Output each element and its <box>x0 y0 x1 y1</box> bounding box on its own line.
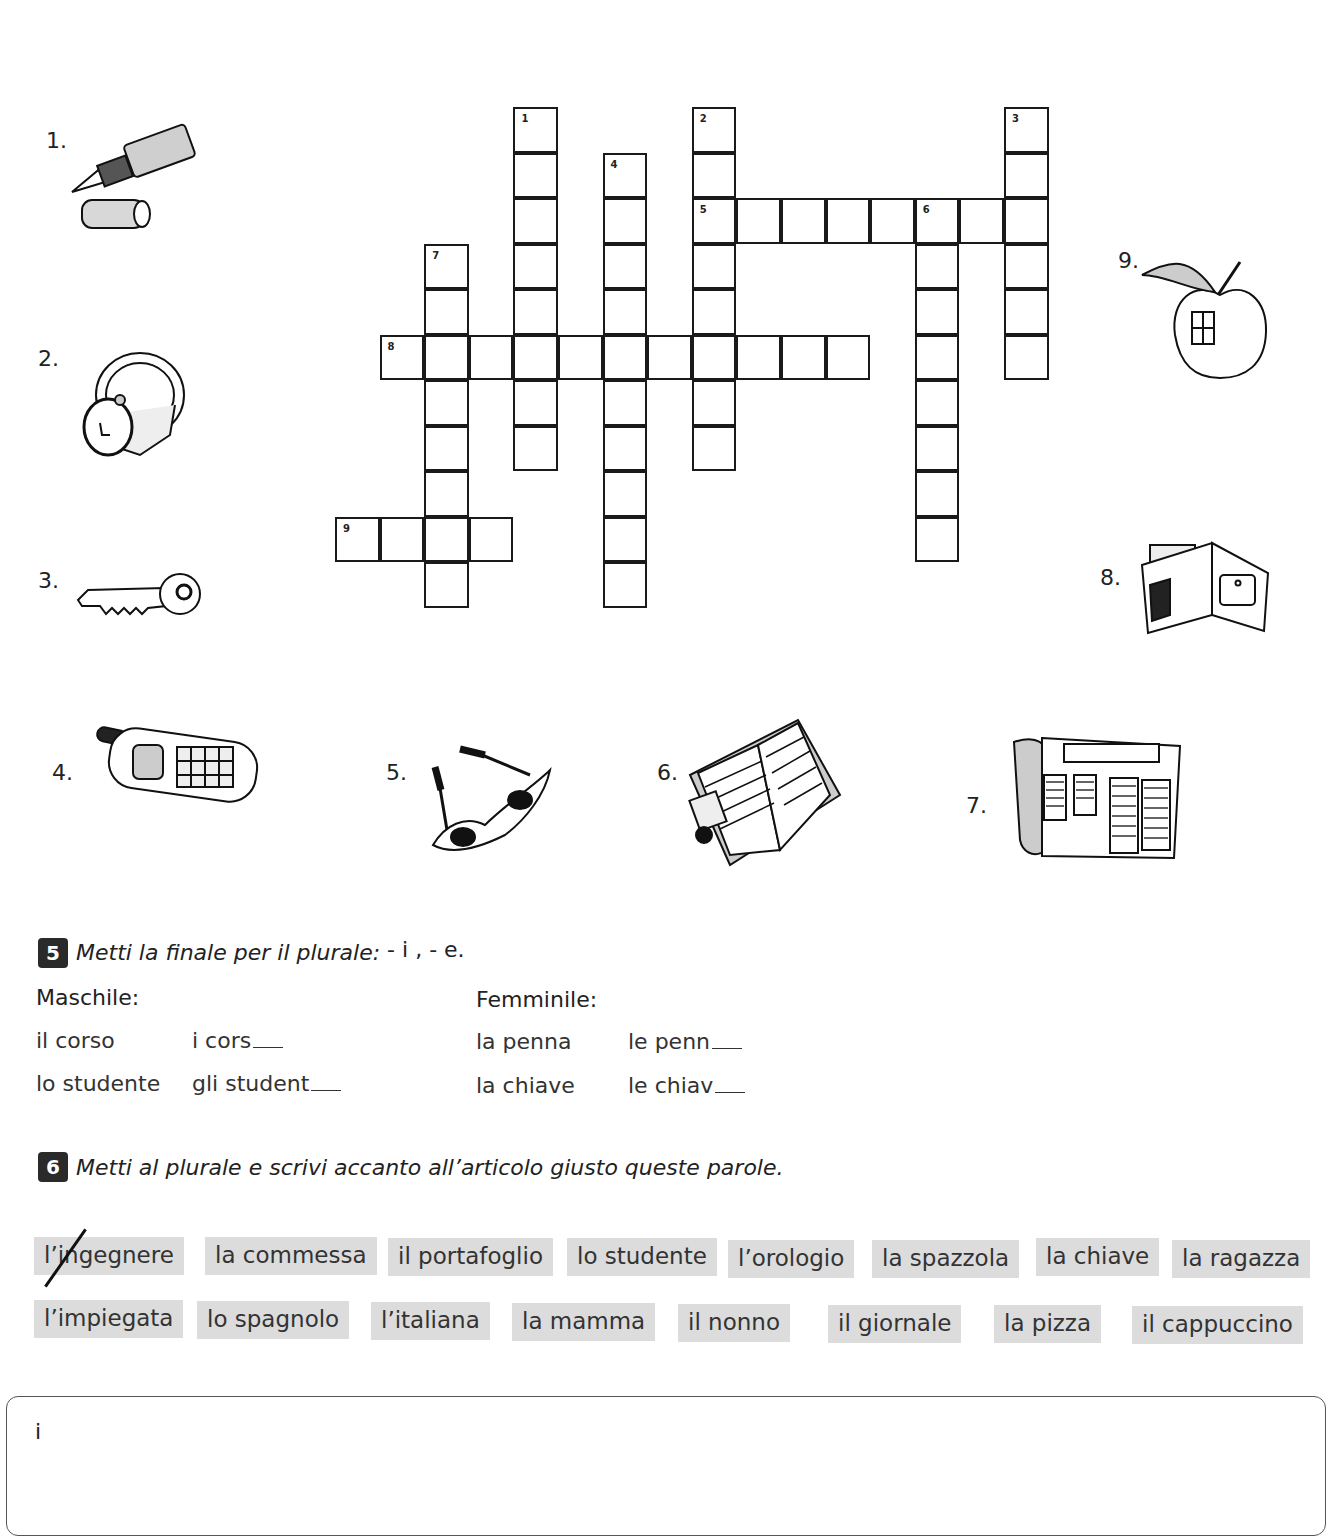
crossword-cell[interactable] <box>692 335 737 381</box>
crossword-cell[interactable] <box>603 517 648 563</box>
word-tag[interactable]: la mamma <box>512 1303 655 1341</box>
crossword-cell[interactable] <box>826 198 871 244</box>
word-tag[interactable]: il nonno <box>678 1304 790 1342</box>
crossword-cell[interactable]: 1 <box>513 107 558 153</box>
crossword-cell[interactable] <box>736 198 781 244</box>
ending-blank[interactable] <box>715 1076 745 1093</box>
crossword-cell[interactable] <box>603 244 648 290</box>
crossword-cell[interactable] <box>603 335 648 381</box>
picture-label-5: 5. <box>386 760 407 785</box>
word-tag[interactable]: la ragazza <box>1172 1240 1310 1278</box>
crossword-cell[interactable] <box>1004 198 1049 244</box>
crossword-cell[interactable] <box>603 289 648 335</box>
crossword-cell[interactable]: 3 <box>1004 107 1049 153</box>
word-tag[interactable]: lo studente <box>567 1238 717 1276</box>
crossword-cell[interactable] <box>469 335 514 381</box>
crossword-cell[interactable] <box>692 153 737 199</box>
word-tag[interactable]: l’ingegnere <box>34 1237 184 1275</box>
crossword-cell[interactable] <box>1004 244 1049 290</box>
crossword-cell[interactable] <box>647 335 692 381</box>
ending-blank[interactable] <box>253 1031 283 1048</box>
crossword-cell[interactable] <box>959 198 1004 244</box>
crossword-cell[interactable] <box>513 153 558 199</box>
crossword-cell[interactable] <box>380 517 425 563</box>
crossword-cell[interactable] <box>1004 335 1049 381</box>
word-tag[interactable]: l’italiana <box>371 1302 490 1340</box>
crossword-cell[interactable] <box>692 426 737 472</box>
word-tag[interactable]: il cappuccino <box>1132 1306 1303 1344</box>
crossword-cell[interactable] <box>513 380 558 426</box>
word-tag[interactable]: l’orologio <box>728 1240 854 1278</box>
clue-number: 1 <box>521 113 528 124</box>
crossword-cell[interactable] <box>781 198 826 244</box>
crossword-cell[interactable] <box>826 335 871 381</box>
crossword-cell[interactable]: 4 <box>603 153 648 199</box>
crossword-cell[interactable] <box>692 244 737 290</box>
crossword-cell[interactable] <box>603 198 648 244</box>
crossword-cell[interactable] <box>469 517 514 563</box>
glasses-icon <box>425 745 555 860</box>
crossword-cell[interactable] <box>424 335 469 381</box>
crossword-cell[interactable]: 7 <box>424 244 469 290</box>
crossword-cell[interactable] <box>915 426 960 472</box>
word-tag[interactable]: la commessa <box>205 1237 377 1275</box>
crossword-cell[interactable] <box>424 562 469 608</box>
crossword-cell[interactable]: 9 <box>335 517 380 563</box>
picture-label-2: 2. <box>38 346 59 371</box>
ending-blank[interactable] <box>311 1074 341 1091</box>
crossword-cell[interactable] <box>513 335 558 381</box>
crossword-cell[interactable] <box>513 244 558 290</box>
word-tag[interactable]: il giornale <box>828 1305 961 1343</box>
crossword-cell[interactable] <box>915 380 960 426</box>
crossword-cell[interactable] <box>870 198 915 244</box>
crossword-cell[interactable] <box>781 335 826 381</box>
crossword-cell[interactable] <box>513 289 558 335</box>
crossword-cell[interactable] <box>915 517 960 563</box>
crossword-cell[interactable]: 2 <box>692 107 737 153</box>
word-tag[interactable]: la chiave <box>1036 1238 1159 1276</box>
word-tag[interactable]: la pizza <box>994 1305 1101 1343</box>
agenda-icon <box>680 715 845 870</box>
picture-label-4: 4. <box>52 760 73 785</box>
crossword-cell[interactable] <box>513 426 558 472</box>
ending-blank[interactable] <box>712 1032 742 1049</box>
word-tag[interactable]: la spazzola <box>872 1240 1019 1278</box>
maschile-singular-1: il corso <box>36 1028 115 1053</box>
crossword-cell[interactable] <box>603 380 648 426</box>
word-tag[interactable]: il portafoglio <box>388 1238 553 1276</box>
answer-box[interactable]: i <box>6 1396 1326 1536</box>
article-label: i <box>35 1419 41 1444</box>
crossword-cell[interactable] <box>424 517 469 563</box>
wallet-icon <box>1140 535 1275 635</box>
crossword-cell[interactable]: 8 <box>380 335 425 381</box>
crossword-cell[interactable] <box>1004 289 1049 335</box>
fountain-pen-icon <box>62 122 202 234</box>
picture-label-7: 7. <box>966 793 987 818</box>
femminile-plural-2: le chiav <box>628 1073 745 1098</box>
clue-number: 8 <box>388 341 395 352</box>
crossword-cell[interactable] <box>603 426 648 472</box>
crossword-cell[interactable] <box>915 244 960 290</box>
crossword-cell[interactable] <box>558 335 603 381</box>
crossword-cell[interactable] <box>603 471 648 517</box>
word-tag[interactable]: l’impiegata <box>34 1300 183 1338</box>
word-tag[interactable]: lo spagnolo <box>197 1301 349 1339</box>
apple-icon <box>1140 250 1270 385</box>
crossword-cell[interactable] <box>915 471 960 517</box>
crossword-cell[interactable] <box>424 289 469 335</box>
crossword-cell[interactable] <box>692 380 737 426</box>
crossword-cell[interactable] <box>692 289 737 335</box>
crossword-cell[interactable] <box>736 335 781 381</box>
crossword-cell[interactable] <box>424 380 469 426</box>
crossword-cell[interactable]: 6 <box>915 198 960 244</box>
exercise-5-badge: 5 <box>38 938 68 968</box>
crossword-cell[interactable] <box>424 471 469 517</box>
crossword-cell[interactable] <box>1004 153 1049 199</box>
crossword-cell[interactable] <box>915 289 960 335</box>
crossword-cell[interactable] <box>603 562 648 608</box>
crossword-cell[interactable] <box>424 426 469 472</box>
crossword-cell[interactable] <box>915 335 960 381</box>
crossword-cell[interactable]: 5 <box>692 198 737 244</box>
exercise-6-badge: 6 <box>38 1152 68 1182</box>
crossword-cell[interactable] <box>513 198 558 244</box>
